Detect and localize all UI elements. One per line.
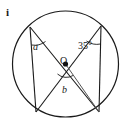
angle-label-35-degrees: 35° <box>78 41 92 51</box>
right-vertical-chord <box>99 26 101 112</box>
angle-label-a: a <box>33 42 38 52</box>
geometry-figure: i a O 35° b <box>0 0 130 126</box>
angle-label-b: b <box>62 85 67 95</box>
center-label-o: O <box>60 56 67 66</box>
arc-b-angle-marker <box>58 74 74 77</box>
left-vertical-chord <box>30 27 36 112</box>
chord-center-to-bottom-right <box>66 64 100 112</box>
part-label-i: i <box>6 7 9 18</box>
